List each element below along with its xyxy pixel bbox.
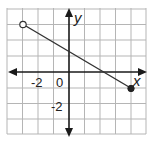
tick-label-y-neg2: -2: [51, 99, 63, 114]
coordinate-graph: y x -2 0 -2: [0, 0, 150, 147]
x-axis-label: x: [132, 72, 141, 89]
x-axis-arrow-left-icon: [8, 68, 17, 76]
tick-label-x-neg2: -2: [31, 75, 43, 90]
tick-label-origin: 0: [56, 75, 63, 90]
y-axis-arrow-down-icon: [65, 128, 73, 137]
open-endpoint: [20, 21, 26, 27]
y-axis-label: y: [73, 9, 83, 26]
